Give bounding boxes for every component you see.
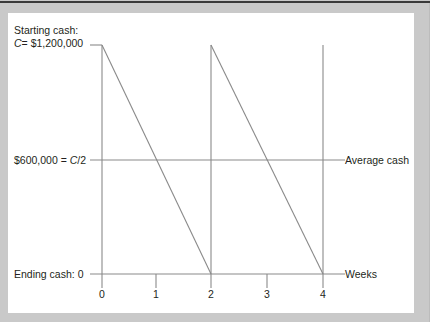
average-cash-amount: $600,000 = xyxy=(14,154,70,166)
starting-cash-label: Starting cash: C= $1,200,000 xyxy=(14,24,83,50)
figure-container: Starting cash: C= $1,200,000 $600,000 = … xyxy=(0,0,430,322)
top-rule-divider xyxy=(0,1,430,3)
starting-cash-amount: = $1,200,000 xyxy=(22,37,84,49)
x-axis-title: Weeks xyxy=(345,268,377,281)
x-tick-label-1: 1 xyxy=(146,288,166,300)
starting-cash-caption: Starting cash: xyxy=(14,24,83,37)
starting-cash-value: C= $1,200,000 xyxy=(14,37,83,50)
x-tick-label-3: 3 xyxy=(257,288,277,300)
starting-cash-symbol-c: C xyxy=(14,37,22,49)
x-tick-label-0: 0 xyxy=(92,288,112,300)
ending-cash-label: Ending cash: 0 xyxy=(14,268,83,281)
average-cash-divisor: /2 xyxy=(77,154,86,166)
average-cash-value-label: $600,000 = C/2 xyxy=(14,154,86,167)
average-cash-line-label: Average cash xyxy=(345,154,409,167)
x-tick-label-4: 4 xyxy=(313,288,333,300)
x-tick-label-2: 2 xyxy=(201,288,221,300)
